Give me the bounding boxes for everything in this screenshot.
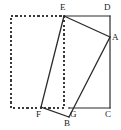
vertex-label-F: F bbox=[36, 110, 41, 119]
vertex-F-marker bbox=[40, 106, 41, 107]
geometry-figure: E D A F G B C bbox=[0, 0, 121, 130]
figure-canvas bbox=[0, 0, 121, 130]
vertex-label-G: G bbox=[70, 110, 77, 119]
dashed-reference-rectangle bbox=[11, 16, 64, 108]
tilted-rectangle-EABF bbox=[41, 16, 110, 117]
vertex-label-A: A bbox=[112, 33, 119, 42]
vertex-label-C: C bbox=[105, 110, 111, 119]
vertex-A-marker bbox=[109, 36, 110, 37]
vertex-label-D: D bbox=[104, 3, 111, 12]
vertex-label-B: B bbox=[64, 119, 70, 128]
vertex-label-E: E bbox=[60, 3, 66, 12]
vertex-E-marker bbox=[63, 15, 64, 16]
